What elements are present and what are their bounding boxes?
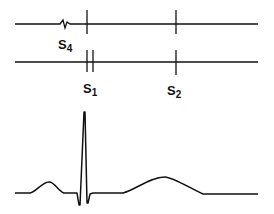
- label-s2-sub: 2: [176, 89, 182, 100]
- label-s2-main: S: [167, 83, 176, 98]
- label-s1: S1: [83, 82, 97, 98]
- label-s1-sub: 1: [92, 87, 98, 98]
- phonocardiogram-trace-bottom: [15, 50, 258, 75]
- phonocardiogram-trace-top: [15, 10, 258, 34]
- heart-sounds-diagram: [0, 0, 274, 214]
- label-s4-sub: 4: [67, 43, 73, 54]
- label-s4: S4: [58, 38, 72, 54]
- trace-top-baseline: [15, 20, 258, 28]
- label-s1-main: S: [83, 81, 92, 96]
- label-s2: S2: [167, 84, 181, 100]
- label-s4-main: S: [58, 37, 67, 52]
- ecg-waveform: [15, 112, 258, 205]
